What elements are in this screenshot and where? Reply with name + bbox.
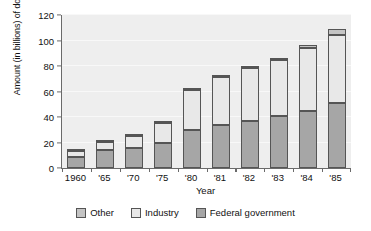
x-tick-mark — [62, 168, 63, 172]
bar-segment-industry — [183, 90, 201, 130]
y-tick-mark — [57, 116, 61, 117]
bar-segment-other — [241, 66, 259, 68]
bar-80 — [183, 88, 201, 168]
x-tick-mark — [149, 168, 150, 172]
stacked-bar-chart: Amount (in billions) of dollars 02040608… — [0, 0, 371, 231]
x-tick-label: '75 — [156, 172, 168, 183]
bar-segment-federal-government — [241, 121, 259, 168]
bar-segment-industry — [241, 68, 259, 121]
x-tick-label: '80 — [185, 172, 197, 183]
bar-segment-other — [299, 45, 317, 48]
y-tick-label: 40 — [28, 112, 54, 123]
y-tick-label: 120 — [28, 10, 54, 21]
bar-segment-federal-government — [270, 116, 288, 168]
x-tick-label: '84 — [300, 172, 312, 183]
bar-segment-federal-government — [154, 143, 172, 169]
x-tick-label: '83 — [272, 172, 284, 183]
legend-label: Other — [90, 207, 114, 218]
federal-government-swatch — [196, 208, 206, 218]
y-tick-mark — [57, 91, 61, 92]
bar-85 — [328, 29, 346, 168]
legend-label: Federal government — [210, 207, 295, 218]
y-tick-mark — [57, 65, 61, 66]
bar-segment-industry — [212, 77, 230, 125]
gridline — [62, 40, 351, 41]
bar-segment-federal-government — [67, 157, 85, 168]
bar-segment-industry — [299, 48, 317, 111]
bar-segment-industry — [154, 123, 172, 143]
bar-segment-other — [67, 149, 85, 151]
bar-segment-industry — [67, 151, 85, 156]
y-tick-label: 20 — [28, 137, 54, 148]
legend-item-other[interactable]: Other — [76, 207, 114, 218]
bar-segment-industry — [270, 60, 288, 115]
legend-item-federal-government[interactable]: Federal government — [196, 207, 295, 218]
y-tick-mark — [57, 167, 61, 168]
bar-segment-federal-government — [212, 125, 230, 168]
x-tick-label: '65 — [98, 172, 110, 183]
y-tick-label: 60 — [28, 86, 54, 97]
x-tick-mark — [178, 168, 179, 172]
x-tick-mark — [120, 168, 121, 172]
bar-81 — [212, 76, 230, 168]
plot-area — [61, 15, 351, 169]
bar-1960 — [67, 151, 85, 168]
bar-segment-other — [154, 121, 172, 123]
x-axis-title: Year — [61, 185, 350, 196]
y-tick-mark — [57, 14, 61, 15]
legend-label: Industry — [145, 207, 179, 218]
bar-segment-other — [183, 88, 201, 91]
x-tick-label: '85 — [329, 172, 341, 183]
x-tick-mark — [264, 168, 265, 172]
x-tick-mark — [235, 168, 236, 172]
legend-item-industry[interactable]: Industry — [131, 207, 179, 218]
bar-84 — [299, 45, 317, 168]
y-tick-mark — [57, 40, 61, 41]
chart-legend: OtherIndustryFederal government — [0, 207, 371, 218]
bar-segment-industry — [328, 35, 346, 103]
bar-65 — [96, 141, 114, 168]
bar-75 — [154, 122, 172, 168]
industry-swatch — [131, 208, 141, 218]
bar-70 — [125, 135, 143, 168]
x-tick-label: '81 — [214, 172, 226, 183]
bar-segment-other — [328, 29, 346, 35]
y-axis-title: Amount (in billions) of dollars — [12, 0, 22, 114]
bar-segment-federal-government — [183, 130, 201, 168]
x-tick-label: 1960 — [65, 172, 86, 183]
y-tick-label: 0 — [28, 163, 54, 174]
bar-segment-other — [270, 58, 288, 60]
bar-segment-industry — [96, 142, 114, 150]
gridline — [62, 14, 351, 15]
other-swatch — [76, 208, 86, 218]
y-tick-mark — [57, 142, 61, 143]
bar-segment-federal-government — [328, 103, 346, 168]
bar-segment-other — [125, 134, 143, 136]
x-tick-label: '70 — [127, 172, 139, 183]
x-tick-mark — [293, 168, 294, 172]
bar-segment-industry — [125, 136, 143, 147]
x-tick-label: '82 — [243, 172, 255, 183]
bar-segment-other — [212, 75, 230, 77]
x-tick-mark — [91, 168, 92, 172]
bar-segment-federal-government — [96, 150, 114, 168]
y-tick-label: 80 — [28, 61, 54, 72]
bar-segment-federal-government — [125, 148, 143, 168]
bar-segment-federal-government — [299, 111, 317, 168]
bar-segment-other — [96, 140, 114, 142]
bar-83 — [270, 58, 288, 168]
bar-82 — [241, 66, 259, 168]
y-tick-label: 100 — [28, 35, 54, 46]
x-tick-mark — [207, 168, 208, 172]
x-tick-mark — [350, 168, 351, 172]
x-tick-mark — [322, 168, 323, 172]
